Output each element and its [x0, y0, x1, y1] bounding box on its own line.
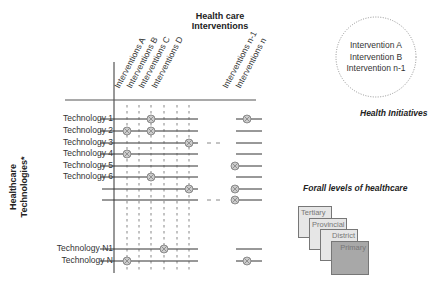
level-label: District [332, 231, 355, 240]
level-label: Primary [340, 243, 366, 252]
intersection-marker-icon [123, 257, 131, 265]
intersection-marker-icon [243, 115, 251, 123]
intersection-marker-icon [185, 139, 193, 147]
row-label: Technology 1 [63, 113, 113, 123]
header-title: Health care Interventions [175, 11, 265, 31]
intersection-marker-icon [123, 127, 131, 135]
intersection-marker-icon [231, 196, 239, 204]
y-axis-label-line2: Technologies* [19, 142, 30, 232]
intersection-marker-icon [123, 150, 131, 158]
level-primary: Primary [331, 241, 369, 275]
intersection-marker-icon [231, 185, 239, 193]
initiative-item: Intervention n-1 [336, 63, 416, 75]
row-label: Technology 6 [63, 171, 113, 181]
levels-title: Forall levels of healthcare [303, 183, 407, 193]
intersection-marker-icon [160, 245, 168, 253]
intersection-marker-icon [147, 173, 155, 181]
row-label: Technology 4 [63, 148, 113, 158]
row-label: Technology 5 [63, 160, 113, 170]
intersection-marker-icon [231, 162, 239, 170]
health-initiatives-label: Health Initiatives [360, 108, 428, 118]
row-label: Technology 2 [63, 125, 113, 135]
header-title-line1: Health care [175, 11, 265, 21]
row-label: Technology N1 [57, 243, 113, 253]
row-label: Technology N [61, 255, 113, 265]
y-axis-label-line1: Healthcare [8, 142, 19, 232]
initiative-item: Intervention A [336, 40, 416, 52]
intersection-marker-icon [243, 257, 251, 265]
health-initiatives-list: Intervention A Intervention B Interventi… [336, 40, 416, 75]
intersection-marker-icon [185, 185, 193, 193]
row-label: Technology 3 [63, 137, 113, 147]
level-label: Tertiary [301, 208, 326, 217]
intersection-marker-icon [147, 115, 155, 123]
intersection-marker-icon [147, 127, 155, 135]
initiative-item: Intervention B [336, 52, 416, 64]
level-label: Provincial [312, 220, 345, 229]
y-axis-label: Healthcare Technologies* [8, 142, 30, 232]
